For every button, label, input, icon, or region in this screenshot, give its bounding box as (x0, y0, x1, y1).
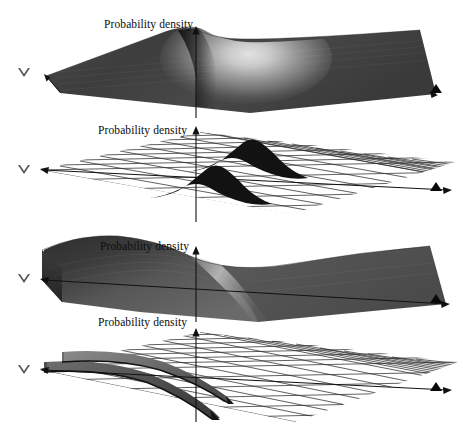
panel-1-axis-label: Probability density (104, 18, 193, 30)
panel-2-axis-label: Probability density (98, 124, 187, 136)
panel-3-axis-label: Probability density (100, 240, 189, 252)
panel-2-right-marker (430, 182, 442, 191)
panel-3-left-marker (18, 274, 30, 283)
panel-4-wireframe-grid (40, 329, 462, 422)
panel-2-surface (0, 118, 463, 222)
panel-4-right-arrowhead (443, 387, 452, 394)
panel-4: Probability density (0, 322, 463, 432)
panel-3-surface (0, 218, 463, 326)
panel-2-left-arrowhead (40, 167, 49, 174)
panel-2-horizontal-axis (44, 170, 448, 190)
probability-density-figure: Probability density (0, 0, 463, 432)
panel-4-left-marker (18, 365, 30, 374)
panel-4-left-arrowhead (40, 367, 49, 374)
panel-2-vertical-axis-arrowhead (192, 126, 199, 135)
panel-4-axis-label: Probability density (98, 316, 187, 328)
panel-4-blade-near (44, 361, 220, 418)
panel-4-surface (0, 322, 463, 432)
panel-4-blade-far-cap (62, 352, 64, 362)
panel-1-surface (0, 0, 463, 118)
panel-2-left-marker (18, 165, 30, 174)
panel-2: Probability density (0, 118, 463, 222)
panel-1: Probability density (0, 0, 463, 118)
panel-3: Probability density (0, 218, 463, 326)
panel-3-vertical-axis-arrowhead (192, 246, 199, 255)
panel-4-vertical-axis-arrowhead (192, 328, 199, 337)
panel-1-right-marker (430, 84, 442, 93)
panel-3-left-arrowhead (40, 277, 49, 284)
panel-4-right-marker (430, 382, 442, 391)
panel-1-left-marker (18, 68, 30, 77)
panel-3-right-arrowhead (441, 301, 450, 308)
panel-2-right-arrowhead (443, 187, 452, 194)
panel-3-right-marker (430, 294, 442, 303)
panel-4-horizontal-axis (44, 370, 448, 390)
